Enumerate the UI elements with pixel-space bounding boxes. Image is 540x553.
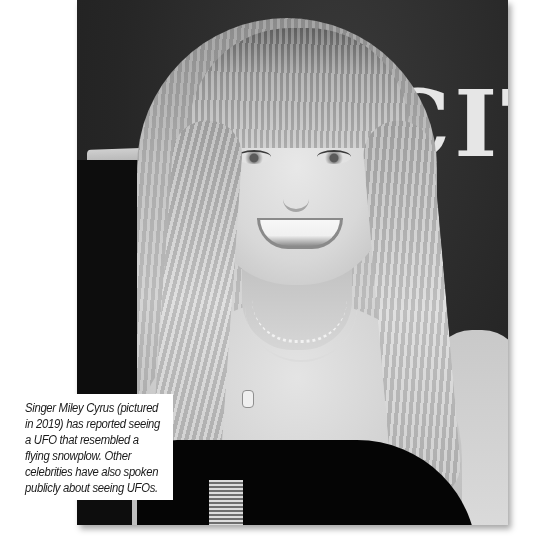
right-eye (317, 150, 351, 164)
necklace-pendant (242, 390, 254, 408)
caption-line: celebrities have also spoken (25, 465, 158, 479)
caption-line: Singer Miley Cyrus (pictured (25, 401, 158, 415)
caption-line: flying snowplow. Other (25, 449, 131, 463)
caption-line: in 2019) has reported seeing (25, 417, 160, 431)
dress-rhinestone-strip (209, 480, 243, 525)
caption-line: publicly about seeing UFOs. (25, 481, 158, 495)
document-page: CIT Singer Miley Cyrus (pictured in 2019… (0, 0, 540, 553)
caption-line: a UFO that resembled a (25, 433, 139, 447)
caption-text: Singer Miley Cyrus (pictured in 2019) ha… (25, 400, 172, 496)
nose (283, 175, 309, 212)
photo-caption: Singer Miley Cyrus (pictured in 2019) ha… (0, 394, 173, 500)
